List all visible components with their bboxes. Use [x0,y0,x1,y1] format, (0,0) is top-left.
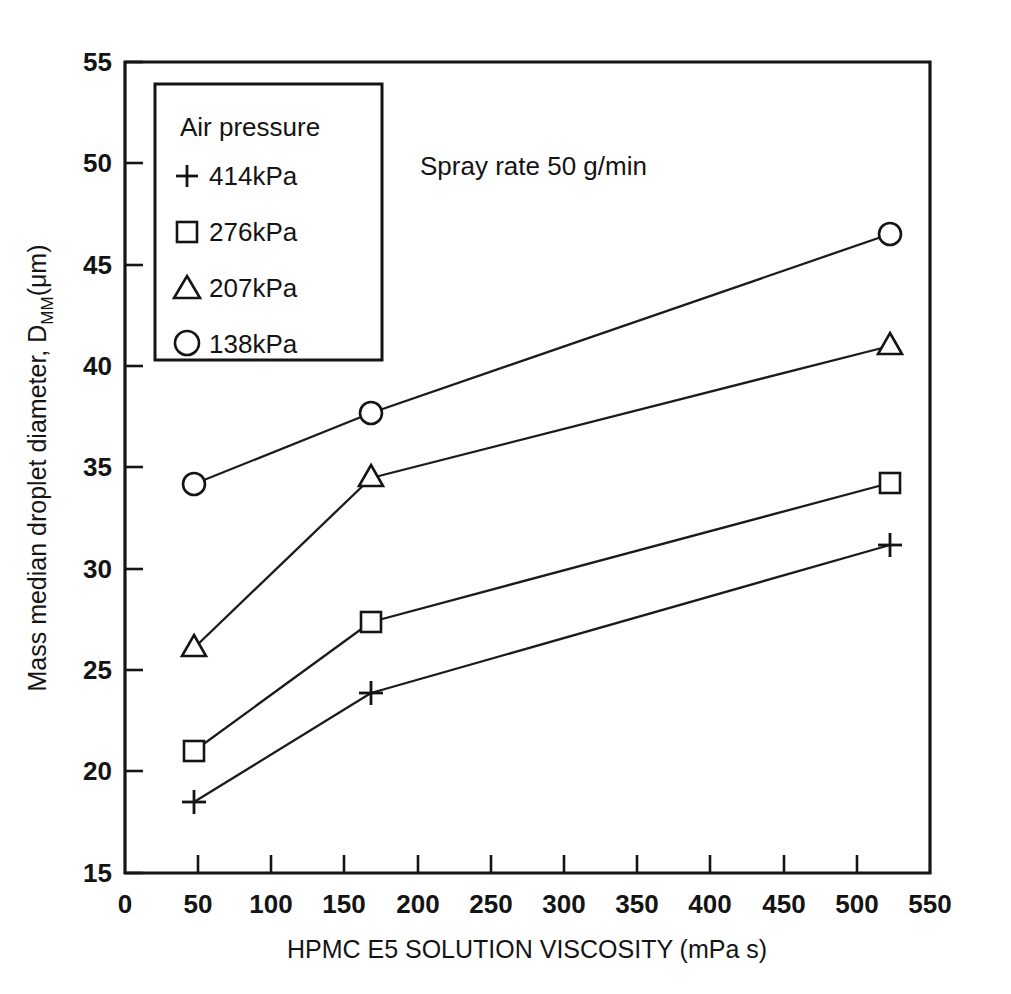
legend-title: Air pressure [180,112,320,142]
data-point-138kPa-0 [183,473,205,495]
x-tick-label-400: 400 [688,889,731,919]
y-axis-title-group: Mass median droplet diameter, DMM(μm) [23,244,57,691]
series-207kPa [182,333,902,656]
y-tick-label-20: 20 [83,756,112,786]
data-point-138kPa-1 [360,402,382,424]
y-tick-label-30: 30 [83,554,112,584]
y-axis-title: Mass median droplet diameter, DMM(μm) [23,244,57,691]
x-tick-label-100: 100 [249,889,292,919]
x-axis-tick-labels: 0 50 100 150 200 250 300 350 400 450 500… [118,889,952,919]
y-tick-label-15: 15 [83,858,112,888]
data-point-414kPa-2 [878,533,902,557]
x-tick-label-50: 50 [184,889,213,919]
y-tick-label-50: 50 [83,148,112,178]
legend-label-138kPa: 138kPa [209,329,298,359]
y-axis-ticks [125,62,143,873]
chart-figure: 15 20 25 30 35 40 45 50 55 0 50 [0,0,1011,994]
x-tick-label-550: 550 [908,889,951,919]
x-tick-label-300: 300 [542,889,585,919]
y-tick-label-40: 40 [83,351,112,381]
x-tick-label-0: 0 [118,889,132,919]
x-tick-label-500: 500 [835,889,878,919]
x-axis-title: HPMC E5 SOLUTION VISCOSITY (mPa s) [287,935,767,963]
chart-annotation: Spray rate 50 g/min [420,151,647,181]
data-point-276kPa-0 [184,741,204,761]
series-207kPa-line [194,346,890,648]
y-axis-title-units: (μm) [23,244,51,296]
y-axis-title-subscript: MM [38,296,57,324]
x-axis-ticks [198,855,857,873]
legend-label-207kPa: 207kPa [209,273,298,303]
data-point-207kPa-2 [878,333,902,354]
data-point-414kPa-1 [359,681,383,705]
data-point-207kPa-0 [182,635,206,656]
data-point-414kPa-0 [182,790,206,814]
x-tick-label-150: 150 [322,889,365,919]
series-276kPa [184,473,900,761]
series-276kPa-line [194,483,890,751]
x-tick-label-250: 250 [469,889,512,919]
data-point-276kPa-1 [361,612,381,632]
y-axis-tick-labels: 15 20 25 30 35 40 45 50 55 [83,47,112,888]
x-tick-label-350: 350 [615,889,658,919]
data-point-138kPa-2 [879,223,901,245]
y-tick-label-25: 25 [83,655,112,685]
y-tick-label-55: 55 [83,47,112,77]
y-tick-label-45: 45 [83,250,112,280]
y-axis-title-main: Mass median droplet diameter, D [23,325,51,692]
legend-marker-square-icon [177,222,197,242]
legend-label-414kPa: 414kPa [209,161,298,191]
line-chart-svg: 15 20 25 30 35 40 45 50 55 0 50 [0,0,1011,994]
legend-marker-circle-icon [175,331,199,355]
legend: Air pressure 414kPa 276kPa 207kPa 138kPa [155,84,382,360]
legend-label-276kPa: 276kPa [209,217,298,247]
x-tick-label-200: 200 [396,889,439,919]
data-point-276kPa-2 [880,473,900,493]
y-tick-label-35: 35 [83,452,112,482]
x-tick-label-450: 450 [762,889,805,919]
